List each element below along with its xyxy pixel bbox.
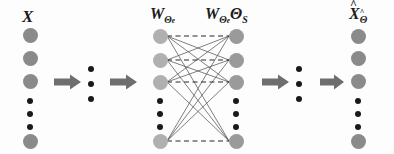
layer-ellipsis-dot [233, 98, 239, 104]
layer-ellipsis-dot [157, 98, 163, 104]
layer-node [229, 53, 244, 68]
encoder-arrow-1 [54, 74, 82, 94]
layer-node [351, 51, 366, 66]
layer-node [153, 29, 168, 44]
layer-node [23, 134, 38, 149]
hat-accent: ^ [350, 0, 357, 10]
layer-ellipsis-dot [355, 124, 361, 130]
output-layer-label: X ^ Θ ^ [349, 6, 367, 25]
solid-cross-connections [167, 36, 229, 141]
decoder-ellipsis [296, 66, 302, 111]
layer-node [351, 134, 366, 149]
hidden-left-layer-label: WΘe [150, 6, 175, 25]
layer-node [23, 74, 38, 89]
layer-ellipsis-dot [233, 124, 239, 130]
layer-node [153, 134, 168, 149]
decoder-arrow-1 [262, 74, 290, 94]
layer-node [229, 75, 244, 90]
layer-ellipsis-dot [27, 98, 33, 104]
layer-ellipsis-dot [27, 111, 33, 117]
hidden-right-layer-label: WΘeΘS [205, 6, 248, 25]
encoder-ellipsis [88, 66, 94, 111]
dashed-identity-connections [167, 36, 229, 141]
input-layer-label: X [22, 8, 33, 25]
layer-ellipsis-dot [27, 124, 33, 130]
layer-node [153, 53, 168, 68]
layer-ellipsis-dot [157, 111, 163, 117]
encoder-subscript: e [172, 16, 175, 25]
layer-ellipsis-dot [157, 124, 163, 130]
layer-node [351, 29, 366, 44]
layer-ellipsis-dot [233, 111, 239, 117]
layer-node [23, 51, 38, 66]
layer-node [351, 74, 366, 89]
layer-node [153, 75, 168, 90]
s-subscript: S [242, 14, 248, 25]
layer-ellipsis-dot [355, 98, 361, 104]
diagram-canvas: X WΘe WΘeΘS X ^ Θ ^ [0, 0, 394, 154]
hat-accent-sub: ^ [360, 9, 365, 17]
theta-subscript: Θ [164, 14, 172, 25]
decoder-arrow-2 [320, 74, 345, 94]
encoder-arrow-2 [110, 74, 138, 94]
layer-node [23, 28, 38, 43]
layer-node [229, 29, 244, 44]
layer-ellipsis-dot [355, 111, 361, 117]
layer-node [229, 134, 244, 149]
theta-subscript: Θ [219, 14, 227, 25]
theta-s-base: Θ [230, 5, 242, 22]
